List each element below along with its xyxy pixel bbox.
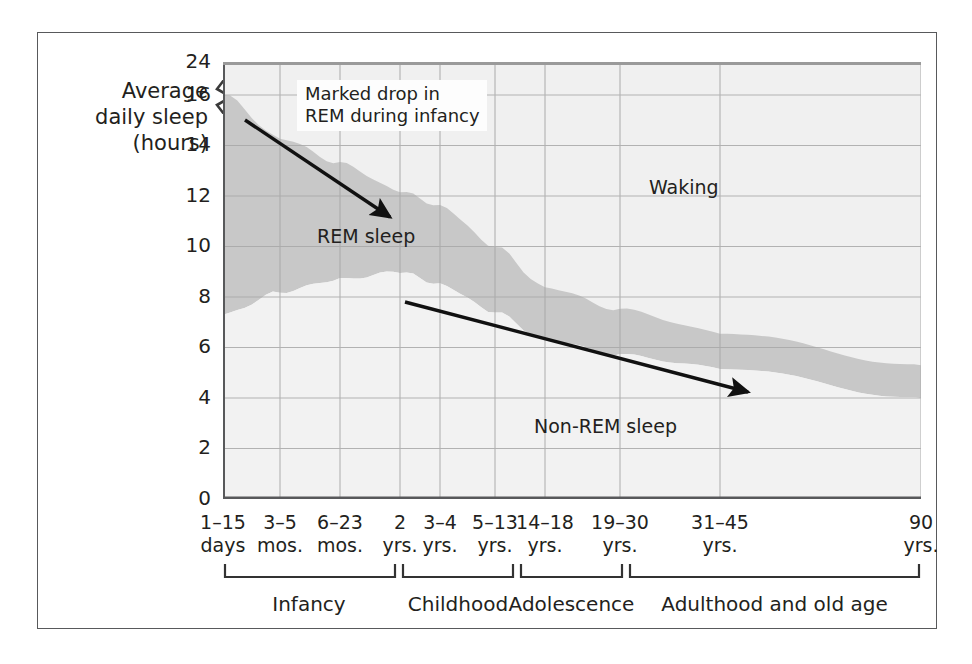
x-axis-tick-7: 14–18yrs. [503, 511, 587, 557]
x-tick-line1: 3–5 [263, 511, 297, 533]
region-label-rem-sleep: REM sleep [317, 225, 415, 248]
stage-label-adulthood: Adulthood and old age [625, 592, 925, 616]
stage-brackets-svg [223, 562, 921, 582]
x-tick-line1: 90 [909, 511, 933, 533]
callout-line1: Marked drop in [305, 83, 440, 104]
y-axis-tick-0: 0 [167, 486, 211, 510]
y-axis-tick-8: 8 [167, 284, 211, 308]
callout-line2: REM during infancy [305, 105, 480, 126]
y-axis-tick-10: 10 [167, 233, 211, 257]
x-axis-tick-9: 31–45yrs. [678, 511, 762, 557]
region-label-non-rem-sleep: Non-REM sleep [534, 415, 677, 438]
x-axis-tick-8: 19–30yrs. [578, 511, 662, 557]
y-axis-tick-12: 12 [167, 183, 211, 207]
y-axis-title-line2: daily sleep [95, 105, 208, 129]
chart-page: Average daily sleep (hours) 241614121086… [0, 0, 972, 664]
x-tick-line1: 19–30 [591, 511, 649, 533]
stage-bracket-group [223, 562, 921, 580]
x-tick-line2: yrs. [879, 534, 963, 557]
y-axis-tick-14: 14 [167, 132, 211, 156]
x-axis-tick-10: 90yrs. [879, 511, 963, 557]
y-axis-tick-2: 2 [167, 435, 211, 459]
y-axis-tick-16: 16 [167, 82, 211, 106]
x-tick-line1: 3–4 [423, 511, 457, 533]
y-axis-tick-6: 6 [167, 334, 211, 358]
y-axis-tick-4: 4 [167, 385, 211, 409]
x-tick-line1: 6–23 [317, 511, 363, 533]
x-tick-line1: 14–18 [516, 511, 574, 533]
region-label-waking: Waking [649, 176, 719, 199]
x-tick-line1: 31–45 [691, 511, 749, 533]
x-tick-line2: yrs. [578, 534, 662, 557]
x-tick-line2: yrs. [678, 534, 762, 557]
x-tick-line2: yrs. [503, 534, 587, 557]
y-axis-tick-24: 24 [167, 49, 211, 73]
marked-drop-callout: Marked drop in REM during infancy [297, 80, 487, 131]
